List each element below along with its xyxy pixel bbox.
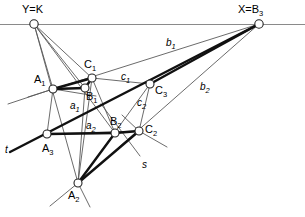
subscript: 2 — [153, 129, 157, 138]
line-label-s: s — [142, 160, 147, 170]
point-label-C3: C3 — [155, 85, 167, 99]
line-label-t: t — [5, 145, 8, 155]
seg-C3-XB3 — [150, 24, 259, 84]
subscript: 1 — [172, 42, 176, 51]
point-label-YK: Y=K — [22, 4, 43, 15]
ray-YK-to-B2 — [34, 24, 115, 133]
point-node-A1[interactable] — [49, 85, 57, 93]
seg-A2-C2 — [78, 131, 139, 183]
subscript: 1 — [92, 64, 96, 73]
subscript: 3 — [49, 148, 53, 157]
point-label-A1: A1 — [34, 74, 46, 88]
subscript: 3 — [163, 90, 167, 99]
line-label-b2: b2 — [200, 82, 210, 95]
point-node-C1[interactable] — [88, 74, 96, 82]
point-label-A3: A3 — [42, 143, 54, 157]
subscript: 2 — [117, 121, 121, 130]
point-node-B2[interactable] — [111, 129, 119, 137]
subscript: 1 — [126, 76, 130, 85]
subscript: 1 — [76, 105, 80, 114]
point-node-YK[interactable] — [30, 20, 38, 28]
line-label-c1: c1 — [121, 72, 130, 85]
line-label-c2: c2 — [137, 98, 146, 111]
line-label-a1: a1 — [70, 101, 80, 114]
point-label-B2: B2 — [110, 116, 122, 130]
subscript: 2 — [92, 125, 96, 134]
subscript: 2 — [75, 195, 79, 204]
line-A1-to-A3 — [47, 89, 53, 134]
subscript: 2 — [142, 102, 146, 111]
point-label-C2: C2 — [145, 124, 157, 138]
subscript: 1 — [93, 96, 97, 105]
point-node-A3[interactable] — [43, 130, 51, 138]
point-node-C3[interactable] — [146, 80, 154, 88]
point-label-A2: A2 — [68, 190, 80, 204]
seg-B2-A3 — [47, 133, 115, 134]
diagram-svg — [0, 0, 305, 217]
line-label-b1: b1 — [166, 38, 176, 51]
subscript: 2 — [206, 86, 210, 95]
subscript: 1 — [41, 79, 45, 88]
point-label-XB3: X=B3 — [238, 4, 263, 18]
point-node-C2[interactable] — [135, 127, 143, 135]
point-node-A2[interactable] — [74, 179, 82, 187]
point-node-XB3[interactable] — [255, 20, 263, 28]
point-label-B1: B1 — [86, 91, 98, 105]
diagram-canvas: Y=KX=B3A1B1C1C3A3B2C2A2b1b2c1c2a1a2ts — [0, 0, 305, 217]
point-label-C1: C1 — [84, 59, 96, 73]
line-label-a2: a2 — [86, 121, 96, 134]
subscript: 3 — [259, 9, 263, 18]
line-t-left-tail — [8, 89, 53, 104]
